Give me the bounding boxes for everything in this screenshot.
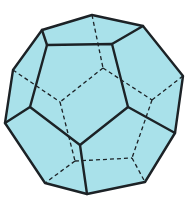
dodecahedron-diagram [0, 0, 193, 209]
dodecahedron-figure [0, 0, 193, 209]
